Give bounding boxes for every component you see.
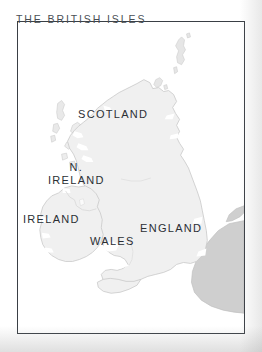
region-label-ireland: IRELAND — [23, 213, 80, 226]
region-label-northern-ireland-line2: IRELAND — [48, 174, 105, 187]
map-figure: THE BRITISH ISLES SCOTLAND N. IRELAND IR… — [0, 0, 262, 352]
region-label-scotland: SCOTLAND — [78, 108, 148, 121]
region-label-northern-ireland: N. IRELAND — [48, 161, 105, 187]
map-title: THE BRITISH ISLES — [16, 13, 146, 25]
region-label-england: ENGLAND — [140, 222, 202, 235]
region-label-northern-ireland-line1: N. — [48, 161, 105, 174]
region-label-wales: WALES — [90, 235, 135, 248]
